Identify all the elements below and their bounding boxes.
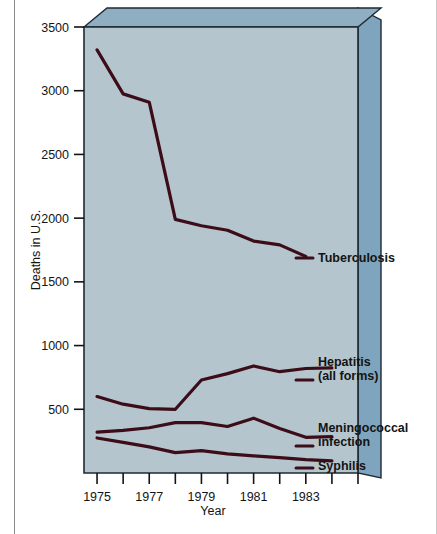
plot-side-face <box>358 8 381 478</box>
series-label-1-line-0: Hepatitis <box>318 355 371 369</box>
x-tick-label-1977: 1977 <box>135 490 163 504</box>
x-tick-label-1975: 1975 <box>83 490 111 504</box>
series-label-3-line-0: Syphilis <box>318 459 366 473</box>
series-label-2-line-0: Meningococcal <box>318 421 408 435</box>
series-label-2-line-1: infection <box>318 435 370 449</box>
y-tick-label-500: 500 <box>48 403 69 417</box>
plot-top-face <box>84 8 381 27</box>
x-tick-label-1979: 1979 <box>188 490 216 504</box>
x-tick-label-1981: 1981 <box>240 490 268 504</box>
x-axis-title: Year <box>200 504 225 518</box>
series-label-1-line-1: (all forms) <box>318 369 378 383</box>
y-tick-label-1500: 1500 <box>41 275 69 289</box>
y-tick-label-3000: 3000 <box>41 84 69 98</box>
y-tick-label-2500: 2500 <box>41 148 69 162</box>
y-axis-title: Deaths in U.S. <box>29 210 43 291</box>
y-tick-label-2000: 2000 <box>41 212 69 226</box>
x-tick-label-1983: 1983 <box>292 490 320 504</box>
y-tick-label-1000: 1000 <box>41 339 69 353</box>
y-tick-label-3500: 3500 <box>41 21 69 35</box>
chart-figure: 500100015002000250030003500 197519771979… <box>0 0 437 534</box>
series-label-0-line-0: Tuberculosis <box>318 251 395 265</box>
chart-svg: 500100015002000250030003500 197519771979… <box>0 0 437 534</box>
